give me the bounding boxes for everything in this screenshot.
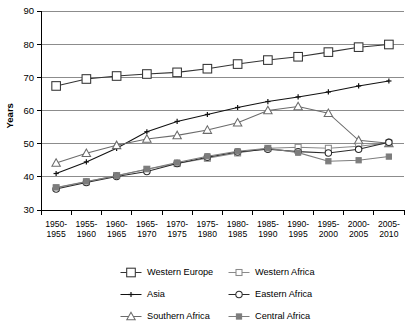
x-tick-label: 1980-1985	[227, 219, 249, 239]
svg-text:2005: 2005	[349, 229, 368, 239]
legend-item-western-europe[interactable]: Western Europe	[119, 266, 227, 279]
x-tick-label: 1995-2000	[317, 219, 339, 239]
legend-marker-icon	[227, 288, 251, 301]
svg-text:1970-: 1970-	[166, 219, 188, 229]
legend-item-eastern-africa[interactable]: Eastern Africa	[227, 288, 347, 301]
y-tick-label: 70	[23, 72, 34, 83]
svg-text:1965-: 1965-	[136, 219, 158, 229]
y-tick-label: 90	[23, 5, 34, 16]
legend-item-southern-africa[interactable]: Southern Africa	[119, 310, 227, 323]
y-tick-label: 30	[23, 204, 34, 215]
line-chart-svg: 30405060708090 1950-19551955-19601960-19…	[0, 0, 413, 255]
x-tick-label: 1950-1955	[45, 219, 67, 239]
legend-label: Western Africa	[255, 267, 315, 277]
series-western-africa	[53, 140, 392, 191]
svg-text:1975-: 1975-	[196, 219, 218, 229]
svg-text:2000-: 2000-	[348, 219, 370, 229]
x-tick-label: 2000-2005	[348, 219, 370, 239]
x-tick-label: 1955-1960	[75, 219, 97, 239]
legend-label: Western Europe	[147, 267, 213, 277]
svg-text:1960: 1960	[77, 229, 96, 239]
data-series-group	[52, 40, 393, 192]
svg-text:2010: 2010	[379, 229, 398, 239]
series-asia	[54, 78, 392, 176]
x-tick-label: 1990-1995	[287, 219, 309, 239]
legend-marker-icon	[119, 266, 143, 279]
svg-text:1955: 1955	[47, 229, 66, 239]
svg-text:1960-: 1960-	[106, 219, 128, 229]
svg-text:1965: 1965	[107, 229, 126, 239]
legend-label: Asia	[147, 289, 165, 299]
gridlines	[41, 11, 404, 177]
x-tick-label: 1960-1965	[106, 219, 128, 239]
x-tick-label: 1970-1975	[166, 219, 188, 239]
svg-text:1970: 1970	[137, 229, 156, 239]
svg-text:2005-: 2005-	[378, 219, 400, 229]
legend-marker-icon	[227, 266, 251, 279]
y-tick-label: 50	[23, 138, 34, 149]
chart-figure: 30405060708090 1950-19551955-19601960-19…	[0, 0, 413, 333]
x-tick-label: 1975-1980	[196, 219, 218, 239]
svg-text:1980: 1980	[198, 229, 217, 239]
series-southern-africa	[52, 102, 393, 166]
legend-label: Southern Africa	[147, 311, 210, 321]
svg-text:1990: 1990	[258, 229, 277, 239]
legend-marker-icon	[119, 288, 143, 301]
legend-label: Eastern Africa	[255, 289, 312, 299]
svg-text:2000: 2000	[319, 229, 338, 239]
svg-text:1950-: 1950-	[45, 219, 67, 229]
series-western-europe	[52, 40, 393, 90]
x-tick-label: 1985-1990	[257, 219, 279, 239]
svg-text:1985: 1985	[228, 229, 247, 239]
legend-item-central-africa[interactable]: Central Africa	[227, 310, 347, 323]
svg-text:1955-: 1955-	[75, 219, 97, 229]
svg-text:1980-: 1980-	[227, 219, 249, 229]
y-axis-ticks	[37, 11, 41, 210]
svg-text:1995-: 1995-	[317, 219, 339, 229]
svg-text:1975: 1975	[168, 229, 187, 239]
svg-text:1995: 1995	[289, 229, 308, 239]
y-tick-label: 80	[23, 39, 34, 50]
y-axis-title: Years	[4, 103, 15, 128]
y-tick-label: 60	[23, 105, 34, 116]
legend-marker-icon	[119, 310, 143, 323]
legend-item-asia[interactable]: Asia	[119, 288, 227, 301]
series-central-africa	[54, 146, 392, 190]
y-tick-label: 40	[23, 171, 34, 182]
chart-legend: Western EuropeWestern AfricaAsiaEastern …	[0, 258, 413, 333]
svg-text:1990-: 1990-	[287, 219, 309, 229]
x-tick-label: 2005-2010	[378, 219, 400, 239]
plot-area: 30405060708090 1950-19551955-19601960-19…	[0, 0, 413, 255]
svg-text:1985-: 1985-	[257, 219, 279, 229]
x-axis-ticks	[41, 210, 404, 215]
y-axis-tick-labels: 30405060708090	[23, 5, 34, 215]
legend-label: Central Africa	[255, 311, 310, 321]
x-axis-tick-labels: 1950-19551955-19601960-19651965-19701970…	[45, 219, 400, 239]
legend-marker-icon	[227, 310, 251, 323]
legend-item-western-africa[interactable]: Western Africa	[227, 266, 347, 279]
x-tick-label: 1965-1970	[136, 219, 158, 239]
